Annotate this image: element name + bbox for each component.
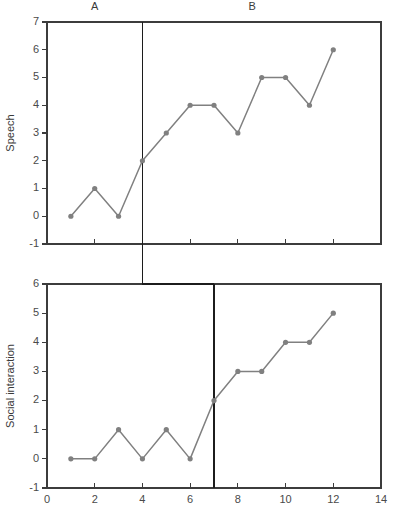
x-axis-tick-label: 4 [139,493,145,505]
x-axis-tick-label: 8 [235,493,241,505]
y-axis-tick-label: 5 [33,70,39,82]
data-point-marker [68,456,73,461]
x-axis-tick-label: 0 [44,493,50,505]
data-point-marker [259,369,264,374]
y-axis-tick-label: 2 [33,393,39,405]
data-point-marker [164,130,169,135]
phase-label: B [248,0,255,12]
y-axis-tick-label: 1 [33,423,39,435]
y-axis-tick-label: 3 [33,364,39,376]
data-point-marker [331,311,336,316]
y-axis-title: Social interaction [4,344,16,428]
data-point-marker [211,103,216,108]
data-point-marker [140,158,145,163]
data-series-line [71,50,333,217]
y-axis-tick-label: 4 [33,98,39,110]
x-axis-tick-label: 6 [187,493,193,505]
x-axis-tick-label: 10 [279,493,291,505]
data-point-marker [92,186,97,191]
y-axis-tick-label: -1 [29,481,39,493]
x-axis-tick-label: 14 [375,493,387,505]
data-point-marker [283,75,288,80]
data-point-marker [140,456,145,461]
data-point-marker [188,456,193,461]
y-axis-tick-label: 5 [33,306,39,318]
y-axis-tick-label: 2 [33,154,39,166]
y-axis-tick-label: 4 [33,335,39,347]
data-point-marker [211,398,216,403]
phase-label: A [91,0,99,12]
social-interaction-chart-svg: -1012345602468101214Social interaction [0,262,396,517]
data-point-marker [164,427,169,432]
y-axis-tick-label: 6 [33,277,39,289]
social-interaction-chart-panel: -1012345602468101214Social interaction [0,262,396,517]
data-point-marker [235,130,240,135]
x-axis-tick-label: 12 [327,493,339,505]
data-point-marker [331,47,336,52]
y-axis-tick-label: 1 [33,181,39,193]
y-axis-tick-label: -1 [29,237,39,249]
data-point-marker [188,103,193,108]
data-point-marker [116,214,121,219]
data-series-line [71,313,333,459]
data-point-marker [259,75,264,80]
phase-change-connector [142,262,214,284]
data-point-marker [307,103,312,108]
y-axis-tick-label: 3 [33,126,39,138]
y-axis-title: Speech [4,114,16,151]
data-point-marker [92,456,97,461]
speech-chart-panel: -101234567SpeechAB [0,0,396,262]
speech-chart-svg: -101234567SpeechAB [0,0,396,262]
data-point-marker [307,340,312,345]
y-axis-tick-label: 0 [33,209,39,221]
data-point-marker [283,340,288,345]
data-point-marker [68,214,73,219]
x-axis-tick-label: 2 [92,493,98,505]
data-point-marker [116,427,121,432]
multiple-baseline-figure: -101234567SpeechAB -1012345602468101214S… [0,0,396,517]
y-axis-tick-label: 0 [33,452,39,464]
y-axis-tick-label: 6 [33,43,39,55]
data-point-marker [235,369,240,374]
y-axis-tick-label: 7 [33,15,39,27]
